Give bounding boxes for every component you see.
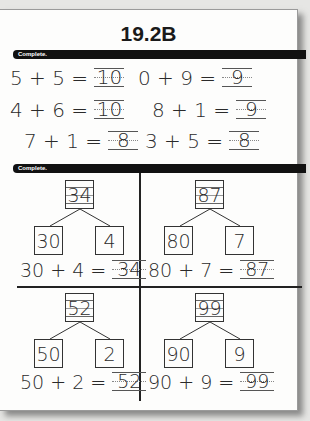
bond-2-ones-box: 7: [225, 226, 254, 255]
bond-1-ones-box: 4: [95, 226, 124, 255]
answer-line[interactable]: 99: [240, 372, 274, 391]
bond-3-whole-box[interactable]: 52: [65, 293, 94, 322]
bond-4-equation: 90 + 9 = 99: [148, 371, 274, 393]
bond-4-tens-box: 90: [164, 339, 193, 368]
bond-4-ones-box: 9: [225, 339, 254, 368]
bond-1-tens-box: 30: [34, 226, 63, 255]
answer-line[interactable]: 52: [112, 372, 146, 391]
bond-3-tens-box: 50: [34, 339, 63, 368]
bond-1-equation: 30 + 4 = 34: [20, 259, 146, 281]
bond-2-equation: 80 + 7 = 87: [148, 259, 274, 281]
answer-line[interactable]: 87: [240, 260, 274, 279]
bond-2-tens-box: 80: [164, 226, 193, 255]
bond-3-equation: 50 + 2 = 52: [20, 371, 146, 393]
bond-4-whole-box[interactable]: 99: [195, 293, 224, 322]
worksheet-page: 19.2B Complete. 5 + 5 = 10 0 + 9 = 9 4 +…: [0, 9, 298, 411]
answer-line[interactable]: 34: [112, 260, 146, 279]
bond-1-whole-box[interactable]: 34: [65, 180, 94, 209]
bond-3-ones-box: 2: [95, 339, 124, 368]
bond-2-whole-box[interactable]: 87: [195, 180, 224, 209]
